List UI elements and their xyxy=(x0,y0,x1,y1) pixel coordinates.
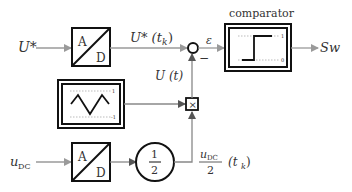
pwm-block-diagram: U* A D U* (t k ) − ε comparator 1 0 Sw xyxy=(0,0,352,192)
svg-text:): ) xyxy=(168,30,173,45)
adc-bottom-block: A D xyxy=(72,143,110,181)
comparator-block: comparator 1 0 xyxy=(225,7,295,71)
comparator-title: comparator xyxy=(229,7,295,20)
adc-top-block: A D xyxy=(72,28,110,66)
u-dc-label-sub: DC xyxy=(18,162,31,171)
svg-text:DC: DC xyxy=(207,154,218,162)
input-u-dc: u DC xyxy=(10,154,31,171)
u-ref-label: U* xyxy=(18,39,37,55)
error-label: ε xyxy=(206,34,212,47)
adc-top-d: D xyxy=(96,51,106,65)
comparator-high-tick: 1 xyxy=(281,33,284,39)
adc-top-a: A xyxy=(77,35,87,49)
svg-text:): ) xyxy=(246,155,251,169)
multiplier-block: × xyxy=(186,98,198,110)
output-label: Sw xyxy=(320,40,340,55)
adc-bottom-a: A xyxy=(77,150,87,164)
input-u-ref: U* xyxy=(18,39,37,55)
half-dc-label: u DC 2 (t k ) xyxy=(199,148,251,177)
multiplier-symbol: × xyxy=(189,99,197,110)
gain-denominator: 2 xyxy=(151,164,158,177)
svg-text:(t: (t xyxy=(228,155,238,169)
gain-numerator: 1 xyxy=(151,148,158,161)
sampled-ref-label: U* (t k ) xyxy=(130,30,173,47)
adc-bottom-d: D xyxy=(96,166,106,180)
carrier-upper-tick: 1 xyxy=(112,88,115,94)
comparator-low-tick: 0 xyxy=(281,57,284,63)
carrier-block: 1 -1 xyxy=(58,80,124,128)
gain-half-block: 1 2 xyxy=(136,143,174,181)
sum-minus-sign: − xyxy=(199,51,209,65)
half-dc-arrow xyxy=(174,112,192,162)
svg-text:U* (t: U* (t xyxy=(130,30,163,45)
carrier-lower-tick: -1 xyxy=(111,114,116,120)
svg-text:2: 2 xyxy=(207,164,214,177)
svg-text:k: k xyxy=(162,37,167,47)
scaled-carrier-label: U (t) xyxy=(155,69,183,83)
